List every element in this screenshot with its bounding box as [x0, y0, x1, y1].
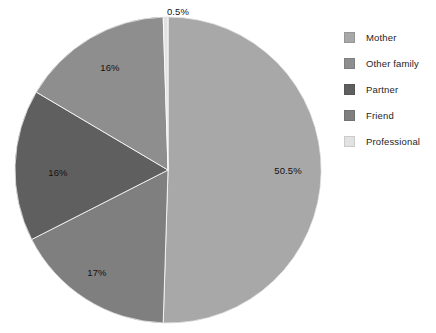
legend-item-label: Other family	[366, 58, 419, 69]
pie-svg	[0, 0, 340, 333]
pie-plot-area: 50.5%17%16%16%0.5%	[0, 0, 340, 333]
legend-item-label: Professional	[366, 136, 420, 147]
legend-item-label: Friend	[366, 110, 394, 121]
legend-item-professional[interactable]: Professional	[344, 135, 436, 147]
legend-swatch-icon	[344, 58, 355, 69]
legend-item-other-family[interactable]: Other family	[344, 57, 436, 69]
legend-item-label: Mother	[366, 32, 396, 43]
legend-swatch-icon	[344, 32, 355, 43]
legend-item-mother[interactable]: Mother	[344, 31, 436, 43]
pie-chart: 50.5%17%16%16%0.5% MotherOther familyPar…	[0, 0, 436, 333]
legend-swatch-icon	[344, 84, 355, 95]
pie-slice-mother[interactable]	[163, 17, 321, 323]
legend-swatch-icon	[344, 110, 355, 121]
legend-swatch-icon	[344, 136, 355, 147]
legend-item-label: Partner	[366, 84, 398, 95]
chart-legend: MotherOther familyPartnerFriendProfessio…	[344, 31, 436, 147]
legend-item-partner[interactable]: Partner	[344, 83, 436, 95]
legend-item-friend[interactable]: Friend	[344, 109, 436, 121]
